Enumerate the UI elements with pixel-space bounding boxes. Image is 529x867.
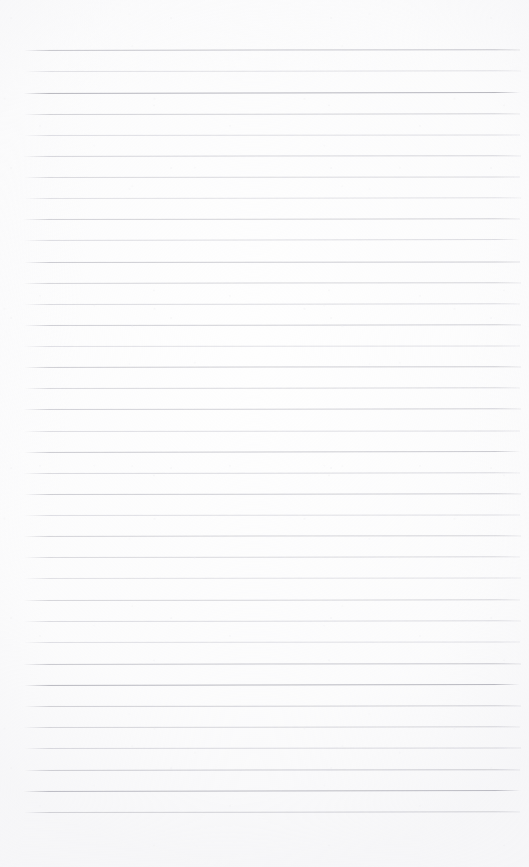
writing-area[interactable] (24, 40, 521, 825)
lined-paper-page (0, 0, 529, 867)
